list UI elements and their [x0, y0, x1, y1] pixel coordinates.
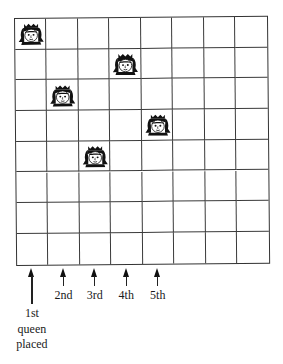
- board-cell: [204, 78, 236, 109]
- board-cell: [237, 232, 269, 263]
- board-cell: [141, 18, 173, 49]
- board-cell: [78, 18, 110, 49]
- board-cell: [17, 234, 49, 265]
- board-cell: [173, 48, 205, 79]
- board-cell: [235, 47, 267, 78]
- board-cell: [236, 109, 268, 140]
- board-cell: [48, 172, 80, 203]
- board-cell: [111, 233, 143, 264]
- board-cell: [235, 17, 267, 48]
- board-cell: [173, 109, 205, 140]
- board-cell: [80, 233, 112, 264]
- board-cell: [80, 202, 112, 233]
- placement-label: 1st: [12, 306, 52, 320]
- board-cell: [141, 79, 173, 110]
- board-cell: [17, 203, 49, 234]
- board-cell: [111, 171, 143, 202]
- board-cell: [16, 80, 48, 111]
- board-cell: [142, 140, 174, 171]
- placement-label: 5th: [138, 288, 178, 302]
- board-cell: [78, 80, 110, 111]
- queen-face-icon: [144, 114, 170, 136]
- board-cell: [172, 17, 204, 48]
- board-cell: [79, 110, 111, 141]
- board-cell: [79, 172, 111, 203]
- board-cell: [206, 232, 238, 263]
- board-cell: [48, 141, 80, 172]
- board-cell: [47, 111, 79, 142]
- queen-face-icon: [50, 84, 76, 106]
- board-cell: [109, 18, 141, 49]
- queen-face-icon: [112, 53, 138, 75]
- board-cell: [142, 202, 174, 233]
- board-cell: [78, 49, 110, 80]
- board-cell: [46, 18, 78, 49]
- board-cell: [173, 140, 205, 171]
- board-cell: [48, 233, 80, 264]
- board-cell: [143, 233, 175, 264]
- chessboard: [14, 16, 270, 266]
- board-cell: [204, 48, 236, 79]
- board-cell: [16, 111, 48, 142]
- board-cell: [173, 79, 205, 110]
- board-cell: [205, 201, 237, 232]
- placement-label: queen: [12, 322, 52, 336]
- board-cell: [174, 202, 206, 233]
- board-cell: [110, 141, 142, 172]
- board-cell: [16, 172, 48, 203]
- board-cell: [236, 78, 268, 109]
- board-cell: [141, 48, 173, 79]
- board-cell: [237, 201, 269, 232]
- board-cell: [142, 171, 174, 202]
- board-cell: [47, 49, 79, 80]
- board-cell: [174, 171, 206, 202]
- board-cell: [111, 202, 143, 233]
- board-cell: [110, 110, 142, 141]
- board-cell: [205, 140, 237, 171]
- board-cell: [48, 203, 80, 234]
- board-cell: [236, 140, 268, 171]
- board-cell: [205, 171, 237, 202]
- board-cell: [204, 109, 236, 140]
- queen-face-icon: [82, 145, 108, 167]
- board-cell: [110, 79, 142, 110]
- placement-label: placed: [12, 337, 52, 351]
- queen-face-icon: [18, 23, 44, 45]
- board-cell: [15, 49, 47, 80]
- board-cell: [204, 17, 236, 48]
- board-cell: [16, 142, 48, 173]
- board-cell: [174, 232, 206, 263]
- board-cell: [236, 170, 268, 201]
